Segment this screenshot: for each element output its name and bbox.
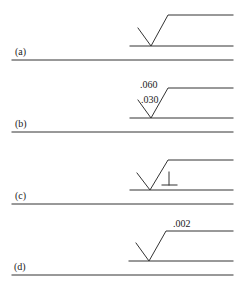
check-mark-icon: [136, 231, 233, 261]
panel-label-b: (b): [15, 119, 27, 129]
surface-texture-symbols-figure: (a) (b) (c) (d) .060 .030 .002: [0, 0, 247, 288]
check-mark-icon: [138, 15, 233, 46]
panel-b-symbol: [12, 88, 233, 132]
figure-drawing: [0, 0, 247, 288]
panel-c-symbol: [12, 160, 233, 204]
roughness-max-value: .060: [140, 80, 158, 90]
perpendicular-lay-icon: [162, 172, 177, 185]
check-mark-icon: [137, 160, 233, 190]
panel-a-symbol: [12, 15, 233, 60]
panel-d-symbol: [12, 231, 233, 275]
panel-label-a: (a): [15, 47, 26, 57]
roughness-min-value: .030: [141, 95, 159, 105]
panel-label-c: (c): [15, 191, 26, 201]
panel-label-d: (d): [14, 262, 26, 272]
waviness-height-value: .002: [173, 219, 191, 229]
